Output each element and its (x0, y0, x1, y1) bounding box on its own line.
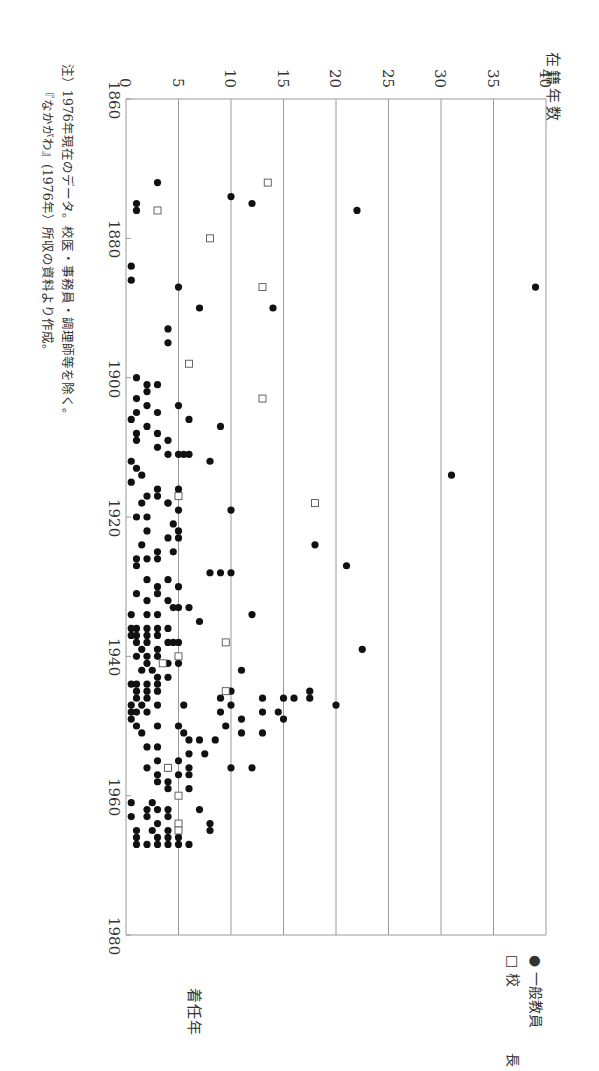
note-line-1: 注）1976年現在のデータ。校医・事務員・調理師等を除く。 (59, 64, 78, 421)
data-point-teacher (448, 472, 455, 479)
data-point-teacher (133, 841, 140, 848)
data-point-teacher (154, 381, 161, 388)
data-point-teacher (175, 402, 182, 409)
data-point-teacher (128, 813, 135, 820)
data-point-principal (259, 284, 266, 291)
y-tick-label: 10 (221, 69, 239, 88)
data-point-principal (222, 688, 229, 695)
data-point-principal (264, 179, 271, 186)
data-point-teacher (154, 820, 161, 827)
data-point-teacher (133, 834, 140, 841)
data-point-teacher (175, 639, 182, 646)
data-point-teacher (275, 708, 282, 715)
data-point-teacher (175, 527, 182, 534)
data-point-teacher (143, 764, 150, 771)
data-point-teacher (175, 506, 182, 513)
data-point-teacher (154, 688, 161, 695)
x-tick-label: 1960 (105, 778, 123, 816)
data-point-teacher (133, 653, 140, 660)
data-point-teacher (143, 611, 150, 618)
y-tick-label: 15 (274, 69, 292, 88)
data-point-teacher (164, 451, 171, 458)
data-point-teacher (154, 674, 161, 681)
data-point-teacher (164, 827, 171, 834)
x-tick-label: 1940 (105, 638, 123, 676)
data-point-teacher (175, 486, 182, 493)
data-point-teacher (343, 562, 350, 569)
data-point-teacher (154, 632, 161, 639)
data-point-teacher (133, 625, 140, 632)
data-point-teacher (532, 284, 539, 291)
data-point-principal (175, 653, 182, 660)
data-point-teacher (227, 193, 234, 200)
data-point-teacher (143, 841, 150, 848)
data-point-teacher (359, 646, 366, 653)
data-point-teacher (133, 632, 140, 639)
data-point-teacher (138, 646, 145, 653)
data-point-teacher (185, 785, 192, 792)
data-point-principal (312, 500, 319, 507)
x-tick-label: 1920 (105, 499, 123, 537)
data-point-teacher (269, 304, 276, 311)
data-point-teacher (154, 409, 161, 416)
data-point-teacher (154, 806, 161, 813)
data-point-principal (186, 360, 193, 367)
data-point-teacher (259, 708, 266, 715)
data-point-teacher (143, 625, 150, 632)
data-point-teacher (175, 771, 182, 778)
data-point-teacher (201, 750, 208, 757)
data-point-teacher (227, 506, 234, 513)
data-point-teacher (280, 715, 287, 722)
data-point-teacher (143, 660, 150, 667)
data-point-principal (165, 764, 172, 771)
data-point-teacher (128, 416, 135, 423)
data-point-teacher (154, 430, 161, 437)
data-point-teacher (133, 513, 140, 520)
data-point-teacher (143, 513, 150, 520)
data-point-teacher (170, 520, 177, 527)
data-point-teacher (149, 827, 156, 834)
data-point-teacher (332, 702, 339, 709)
data-point-teacher (133, 430, 140, 437)
data-point-teacher (185, 771, 192, 778)
note-line-2: 『なかがわ』(1976年）所収の資料より作成。 (39, 86, 58, 357)
data-point-teacher (306, 688, 313, 695)
data-point-teacher (175, 834, 182, 841)
data-point-principal (207, 235, 214, 242)
data-point-teacher (164, 499, 171, 506)
data-point-teacher (164, 437, 171, 444)
x-tick-label: 1980 (105, 917, 123, 955)
x-axis-title: 着任年 (185, 988, 206, 1036)
data-point-teacher (154, 778, 161, 785)
legend-item-principals: □ 校 長 (504, 955, 524, 1071)
data-point-teacher (206, 458, 213, 465)
data-point-teacher (196, 806, 203, 813)
data-point-teacher (154, 702, 161, 709)
data-point-teacher (217, 695, 224, 702)
data-point-teacher (133, 681, 140, 688)
data-point-principal (175, 493, 182, 500)
legend-item-general-teachers: ● 一般教員 (527, 955, 547, 1028)
series-general-teachers (128, 179, 539, 848)
data-point-teacher (154, 444, 161, 451)
data-point-teacher (227, 702, 234, 709)
data-point-teacher (212, 736, 219, 743)
data-point-teacher (143, 493, 150, 500)
data-point-teacher (217, 423, 224, 430)
data-point-teacher (128, 479, 135, 486)
data-point-teacher (175, 660, 182, 667)
y-tick-label: 25 (379, 69, 397, 88)
data-point-teacher (138, 499, 145, 506)
data-point-teacher (128, 715, 135, 722)
data-point-teacher (175, 534, 182, 541)
data-point-teacher (128, 458, 135, 465)
data-point-teacher (353, 207, 360, 214)
data-point-principal (175, 827, 182, 834)
data-point-teacher (196, 304, 203, 311)
data-point-teacher (164, 625, 171, 632)
data-point-teacher (143, 681, 150, 688)
data-point-teacher (248, 764, 255, 771)
data-point-teacher (154, 743, 161, 750)
data-point-teacher (290, 695, 297, 702)
data-point-teacher (217, 708, 224, 715)
